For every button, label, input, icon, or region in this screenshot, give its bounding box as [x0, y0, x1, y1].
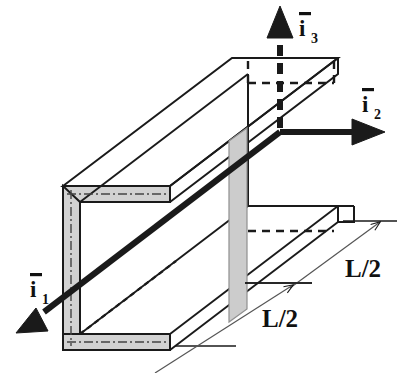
i3-subscript: 3 [311, 31, 318, 46]
i3-label: i [299, 16, 306, 41]
dim-lower-label: L/2 [262, 305, 298, 332]
i2-arrowhead [352, 119, 385, 145]
i1-subscript: 1 [42, 292, 49, 307]
channel-beam-figure: i 3 i 2 i 1 L/2 [0, 0, 415, 373]
i1-overbar [30, 273, 42, 276]
channel-beam-body [63, 58, 354, 350]
i2-label: i [362, 92, 369, 117]
i2-overbar [362, 88, 374, 91]
diagram-canvas: i 3 i 2 i 1 L/2 [0, 0, 415, 373]
dim-upper-label: L/2 [345, 255, 381, 282]
bottom-flange-inner-top-edge [170, 206, 338, 334]
i1-arrowhead [16, 308, 48, 333]
axis-vector-i2: i 2 [280, 88, 385, 145]
top-flange-top-face [63, 58, 338, 186]
i1-label: i [30, 277, 37, 302]
bottom-flange-right-end-thickness [338, 206, 354, 222]
i3-overbar [299, 12, 311, 15]
i2-subscript: 2 [374, 107, 381, 122]
i3-arrowhead [267, 6, 293, 38]
bottom-flange-front-bottom-edge [170, 222, 338, 350]
